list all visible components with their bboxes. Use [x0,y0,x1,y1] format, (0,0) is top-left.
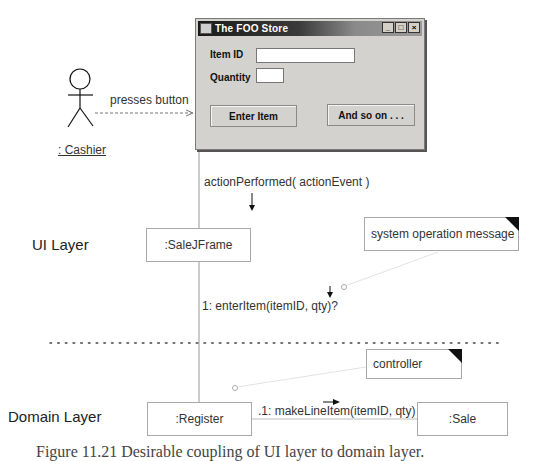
presses-button-label: presses button [110,93,189,107]
sale-object: :Sale [417,402,508,436]
register-object: :Register [147,402,252,436]
ui-layer-label: UI Layer [32,236,89,253]
item-id-input[interactable] [256,48,355,63]
and-so-on-button[interactable]: And so on . . . [327,104,415,126]
action-performed-message: actionPerformed( actionEvent ) [204,175,369,189]
actor-stick-figure-icon [68,69,93,127]
system-operation-note-link [345,252,438,286]
actor-name: : Cashier [58,143,106,157]
item-id-label: Item ID [210,49,243,60]
system-operation-note-text: system operation message [371,227,514,241]
foo-store-window: The FOO Store _ □ × Item ID Quantity Ent… [195,18,425,150]
maximize-icon[interactable]: □ [395,22,407,33]
controller-note-link [237,367,366,387]
domain-layer-label: Domain Layer [8,408,101,425]
close-icon[interactable]: × [408,22,420,33]
note-fold-icon [448,349,462,363]
system-operation-anchor [342,285,347,290]
figure-caption: Figure 11.21 Desirable coupling of UI la… [36,443,424,461]
system-operation-note: system operation message [364,217,519,251]
sale-jframe-object: :SaleJFrame [146,228,251,262]
window-title: The FOO Store [215,23,288,34]
controller-note: controller [366,349,462,379]
action-performed-arrowhead [249,205,255,211]
enter-item-button[interactable]: Enter Item [210,105,297,127]
enter-item-arrowhead [327,292,333,298]
minimize-icon[interactable]: _ [382,22,394,33]
controller-anchor [233,386,238,391]
window-titlebar[interactable]: The FOO Store _ □ × [198,21,422,36]
enter-item-message: 1: enterItem(itemID, qty)? [202,299,338,313]
make-line-item-message: .1: makeLineItem(itemID, qty) [258,404,415,418]
quantity-label: Quantity [210,72,251,83]
quantity-input[interactable] [256,68,284,83]
note-fold-icon [505,217,519,231]
controller-note-text: controller [373,357,422,371]
app-icon [200,23,212,34]
